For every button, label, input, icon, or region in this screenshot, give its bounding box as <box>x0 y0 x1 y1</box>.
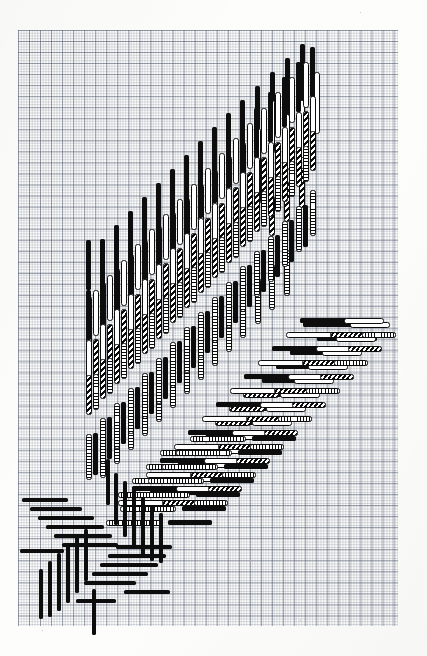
bar-v-seg-v <box>114 403 120 449</box>
bar-h-seg-h <box>190 436 246 442</box>
bar-h-solid <box>182 506 226 511</box>
bar-v-seg-v <box>296 206 302 252</box>
bar-h-seg-h <box>148 478 204 484</box>
bar-v-seg-v <box>212 297 218 343</box>
star-arm-extra <box>92 589 96 635</box>
bar-v-hollow <box>303 62 309 108</box>
bar-h-seg-h <box>278 416 312 422</box>
star-arm-extra <box>20 549 64 553</box>
bar-v-hatch <box>268 177 274 217</box>
bar-v-solid <box>156 214 161 264</box>
bar-v-solid <box>149 372 154 414</box>
bar-v-solid <box>191 326 196 368</box>
bar-v-hollow <box>233 138 239 184</box>
bar-v-hatch <box>114 344 120 384</box>
bar-v-seg-v <box>268 236 274 282</box>
bar-v-hollow <box>163 214 169 260</box>
bar-v-hatch <box>156 299 162 339</box>
bar-v-hatch <box>240 207 246 247</box>
star-arm-vertical <box>114 473 118 525</box>
bar-h-hatch <box>348 346 382 352</box>
bar-v-seg-v <box>198 312 204 358</box>
bar-v-hatch <box>212 238 218 278</box>
bar-v-hollow <box>149 229 155 275</box>
bar-v-solid <box>212 153 217 203</box>
bar-v-solid <box>268 92 273 142</box>
bar-v-hatch <box>198 253 204 293</box>
bar-h-hatch <box>292 402 326 408</box>
star-arm-vertical <box>48 561 52 617</box>
figure-page <box>0 0 427 656</box>
star-arm-horizontal <box>100 563 158 567</box>
bar-v-seg-v <box>233 222 239 258</box>
star-arm-extra <box>22 498 68 502</box>
bar-v-seg-v <box>121 343 127 379</box>
bar-v-solid <box>289 220 294 262</box>
bar-v-solid <box>177 341 182 383</box>
star-arm-horizontal <box>108 554 166 558</box>
bar-v-solid <box>254 108 259 158</box>
bar-v-solid <box>205 311 210 353</box>
star-arm-extra <box>39 569 43 619</box>
bar-v-solid <box>226 138 231 188</box>
bar-v-solid <box>86 240 91 290</box>
bar-v-hatch <box>254 192 260 232</box>
bar-v-hollow <box>107 275 113 321</box>
bar-v-hollow <box>121 260 127 306</box>
star-arm-horizontal <box>30 507 82 511</box>
bar-v-solid <box>142 229 147 279</box>
bar-v-hatch <box>184 268 190 308</box>
bar-v-seg-v <box>107 358 113 394</box>
bar-v-seg-v <box>135 328 141 364</box>
bar-v-hatch <box>170 283 176 323</box>
bar-h-hollow <box>344 318 384 324</box>
star-arm-extra <box>124 590 170 594</box>
bar-v-seg-v <box>219 237 225 273</box>
bar-v-seg-v <box>310 190 316 236</box>
bar-v-seg-v <box>275 176 281 212</box>
bar-v-hatch <box>142 314 148 354</box>
star-arm-horizontal <box>84 581 136 585</box>
bar-v-hollow <box>205 168 211 214</box>
bar-v-solid <box>170 199 175 249</box>
bar-v-seg-v <box>142 373 148 419</box>
bar-v-seg-v <box>205 252 211 288</box>
bar-v-seg-v <box>289 161 295 197</box>
bar-v-hollow <box>93 290 99 336</box>
bar-v-hatch <box>296 147 302 187</box>
bar-v-hollow <box>177 199 183 245</box>
bar-h-seg-h <box>162 464 218 470</box>
bar-v-solid <box>121 402 126 444</box>
bar-v-solid <box>261 250 266 292</box>
bar-v-solid <box>240 123 245 173</box>
bar-v-solid <box>296 62 301 112</box>
star-arm-vertical <box>75 537 79 593</box>
bar-v-solid <box>128 244 133 294</box>
bar-plot-layer <box>0 0 427 656</box>
bar-v-seg-v <box>191 267 197 303</box>
bar-v-seg-v <box>303 146 309 182</box>
star-arm-horizontal <box>46 525 104 529</box>
star-arm-horizontal <box>38 516 94 520</box>
bar-v-seg-v <box>100 418 106 464</box>
scan-speck <box>360 12 361 13</box>
bar-v-solid <box>233 281 238 323</box>
star-arm-horizontal <box>54 534 112 538</box>
bar-h-solid <box>210 478 254 483</box>
star-arm-horizontal <box>92 572 148 576</box>
bar-h-seg-h <box>306 388 340 394</box>
bar-v-solid <box>310 47 315 97</box>
bar-v-seg-v <box>128 388 134 434</box>
bar-v-seg-v <box>254 251 260 297</box>
bar-v-seg-v <box>170 342 176 388</box>
bar-h-seg-h <box>362 332 396 338</box>
bar-h-solid <box>238 450 282 455</box>
bar-v-hollow <box>261 108 267 154</box>
bar-v-solid <box>219 296 224 338</box>
star-arm-extra <box>76 599 116 603</box>
star-arm-extra <box>106 459 110 505</box>
star-arm-vertical <box>57 553 61 611</box>
star-arm-vertical <box>66 545 70 603</box>
star-arm-vertical <box>150 505 154 561</box>
bar-v-solid <box>86 290 91 340</box>
